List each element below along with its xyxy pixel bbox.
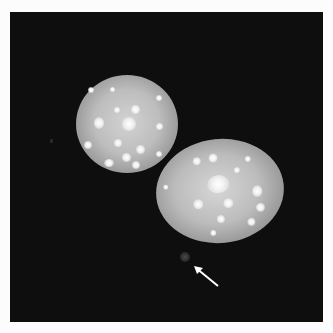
arrow-annotation-icon xyxy=(192,264,222,294)
faint-speck xyxy=(50,139,53,143)
nucleus-upper-left xyxy=(76,75,178,173)
small-faint-body xyxy=(180,252,190,262)
micrograph-panel xyxy=(10,12,323,322)
nucleus-lower-right xyxy=(151,133,289,250)
